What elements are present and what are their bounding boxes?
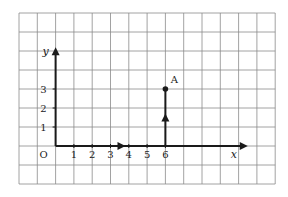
y-tick-label: 2 bbox=[40, 103, 46, 114]
direction-arrow-up-icon bbox=[161, 114, 169, 122]
y-tick-label: 1 bbox=[40, 122, 46, 133]
x-tick-label: 5 bbox=[144, 149, 150, 160]
x-tick-label: 3 bbox=[107, 149, 113, 160]
x-tick-label: 6 bbox=[162, 149, 168, 160]
coordinate-diagram: O x y A 123456123 bbox=[0, 0, 288, 197]
labels: O x y A bbox=[39, 45, 237, 161]
axes bbox=[52, 47, 248, 150]
x-tick-label: 1 bbox=[71, 149, 77, 160]
origin-label: O bbox=[39, 149, 47, 160]
direction-arrow-right-icon bbox=[117, 142, 125, 150]
x-axis-label: x bbox=[231, 148, 238, 161]
tick-labels: 123456123 bbox=[40, 84, 168, 161]
coordinate-plane: O x y A 123456123 bbox=[0, 0, 288, 197]
y-tick-label: 3 bbox=[40, 84, 46, 95]
point-a-label: A bbox=[170, 74, 179, 85]
y-axis-label: y bbox=[41, 45, 49, 58]
x-tick-label: 2 bbox=[89, 149, 95, 160]
x-tick-label: 4 bbox=[126, 149, 132, 160]
point-a-dot bbox=[163, 86, 169, 92]
x-axis-arrow-icon bbox=[240, 142, 248, 150]
